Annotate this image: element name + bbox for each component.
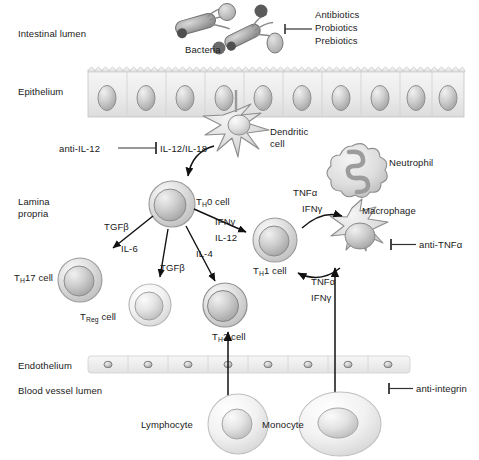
th2-label-rest: 2 cell (223, 331, 246, 342)
therapeutic-probiotics: Probiotics (315, 22, 358, 34)
dendritic-cell-label: Dendritic cell (270, 126, 308, 149)
cytokine-ifng-th1: IFNγ (215, 216, 235, 228)
diagram-canvas: Intestinal lumen Epithelium Lamina propr… (0, 0, 479, 460)
therapeutic-anti-integrin: anti-integrin (416, 383, 467, 395)
monocyte-label: Monocyte (262, 419, 304, 431)
treg-label-sub: Reg (86, 316, 99, 323)
th2-label-sub: H (218, 336, 223, 343)
monocyte-shape (299, 392, 381, 456)
th1-cell-shape (253, 218, 297, 262)
lamina-propria-line2: propria (18, 208, 48, 219)
lamina-propria-line1: Lamina (18, 196, 50, 207)
cytokine-ifng-bottom: IFNγ (311, 292, 331, 304)
compartment-label-blood-vessel-lumen: Blood vessel lumen (18, 385, 102, 397)
lumen-therapy-connector (285, 24, 312, 34)
cytokine-tnfa-bottom: TNFα (311, 276, 335, 288)
therapeutic-anti-il12: anti-IL-12 (59, 143, 100, 155)
neutrophil-shape (327, 144, 387, 198)
treg-cell-shape (129, 284, 171, 326)
anti-tnfa-connector (391, 239, 416, 250)
th2-cell-shape (203, 283, 247, 327)
th0-label-sub: H (202, 201, 207, 208)
th17-cell-label: TH17 cell (14, 272, 53, 284)
therapeutic-antibiotics: Antibiotics (315, 9, 359, 21)
cytokine-tgfb-treg: TGFβ (160, 262, 185, 274)
th0-cell-shape (149, 181, 195, 227)
therapeutic-prebiotics: Prebiotics (315, 35, 358, 47)
treg-cell-label: TReg cell (80, 311, 116, 323)
anti-integrin-connector (389, 383, 413, 394)
endothelium-layer (88, 356, 410, 373)
th1-cell-label: TH1 cell (253, 265, 287, 277)
anti-il12-connector (118, 142, 156, 154)
cytokine-il6: IL-6 (121, 243, 138, 255)
cytokine-il4: IL-4 (196, 248, 213, 260)
th1-label-rest: 1 cell (264, 265, 287, 276)
lymphocyte-label: Lymphocyte (141, 419, 193, 431)
treg-label-rest: cell (99, 311, 116, 322)
cytokine-il12-th1: IL-12 (215, 232, 237, 244)
dendritic-cell-label-line1: Dendritic (270, 126, 308, 137)
th17-label-sub: H (20, 277, 25, 284)
cytokine-ifng-top: IFNγ (302, 203, 322, 215)
compartment-label-endothelium: Endothelium (18, 360, 72, 372)
epithelium-layer (88, 67, 465, 117)
th0-label-rest: 0 cell (207, 196, 230, 207)
macrophage-label: Macrophage (362, 205, 416, 217)
th1-label-sub: H (259, 270, 264, 277)
cytokine-tnfa-top: TNFα (293, 187, 317, 199)
th17-cell-shape (58, 258, 102, 302)
neutrophil-label: Neutrophil (389, 157, 433, 169)
compartment-label-epithelium: Epithelium (18, 86, 63, 98)
th0-cell-label: TH0 cell (196, 196, 230, 208)
compartment-label-intestinal-lumen: Intestinal lumen (18, 28, 86, 40)
compartment-label-lamina-propria: Lamina propria (18, 196, 50, 219)
dendritic-cell-label-line2: cell (270, 138, 285, 149)
cytokine-tgfb-th17: TGFβ (104, 221, 129, 233)
th17-label-rest: 17 cell (25, 272, 53, 283)
th2-cell-label: TH2 cell (212, 331, 246, 343)
therapeutic-anti-tnfa: anti-TNFα (419, 239, 462, 251)
lymphocyte-shape (208, 394, 268, 454)
cytokine-il12-il18: IL-12/IL-18 (160, 143, 207, 155)
bacteria-label: Bacteria (185, 44, 221, 56)
